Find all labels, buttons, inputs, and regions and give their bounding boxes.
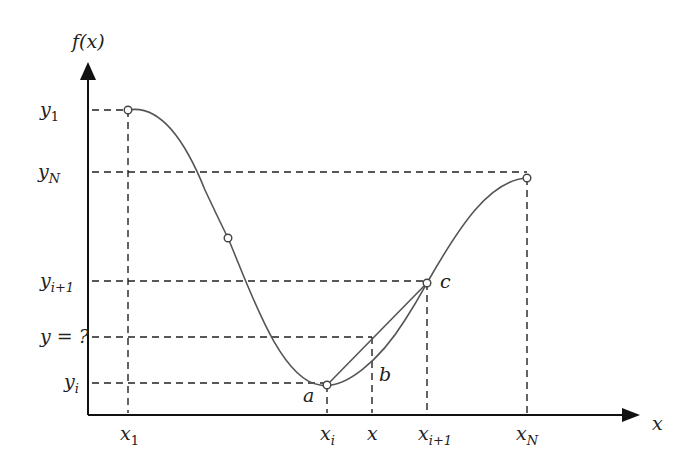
x-axis-title: x [652, 412, 663, 434]
x-tick-xi1: xi+1 [418, 422, 452, 448]
y-tick-y1: y1 [39, 98, 59, 124]
y-axis-arrow-icon [80, 62, 96, 80]
interpolation-diagram: f(x) x y1 yN yi+1 y = ? yi x1 xi x xi+1 … [0, 0, 696, 470]
label-b: b [379, 363, 391, 385]
y-tick-labels: y1 yN yi+1 y = ? yi [37, 98, 90, 396]
point-c [423, 279, 431, 287]
point-1 [124, 106, 132, 114]
point-mid [224, 234, 232, 242]
label-a: a [303, 384, 314, 406]
x-tick-xN: xN [516, 422, 539, 448]
x-axis-arrow-icon [622, 408, 640, 422]
x-tick-x1: x1 [120, 422, 139, 448]
x-tick-labels: x1 xi x xi+1 xN [120, 422, 539, 448]
y-tick-yN: yN [37, 160, 61, 186]
x-tick-xi: xi [320, 422, 335, 448]
dashed-guides [92, 110, 527, 413]
point-N [523, 174, 531, 182]
y-tick-yi1: yi+1 [39, 269, 74, 295]
x-tick-x: x [367, 422, 378, 444]
y-tick-unknown: y = ? [39, 325, 90, 347]
function-curve [128, 109, 527, 385]
point-a [323, 381, 331, 389]
label-c: c [440, 270, 451, 292]
y-axis-title: f(x) [70, 30, 105, 52]
interpolation-chord [327, 283, 427, 385]
y-tick-yi: yi [63, 370, 79, 396]
